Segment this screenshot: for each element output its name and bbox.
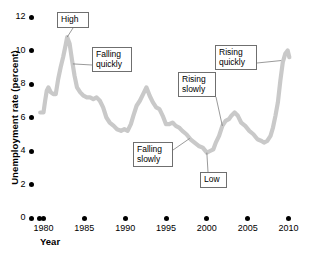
leader-line-rising-slowly <box>216 97 222 126</box>
callout-falling-slowly: Falling slowly <box>133 142 173 167</box>
unemployment-rate-chart: Unemployment rate (percent) Year 0246810… <box>0 0 311 261</box>
leader-line-rising-quickly <box>257 61 281 63</box>
callout-rising-slowly: Rising slowly <box>178 72 216 97</box>
callout-high: High <box>57 12 89 28</box>
callout-low: Low <box>200 172 227 188</box>
callout-falling-quickly: Falling quickly <box>92 47 132 72</box>
leader-line-falling-quickly <box>73 64 92 65</box>
callout-rising-quickly: Rising quickly <box>215 45 257 70</box>
annotation-leader-lines <box>0 0 311 261</box>
leader-line-high <box>67 28 73 37</box>
leader-line-low <box>207 153 208 172</box>
leader-line-falling-slowly <box>173 138 190 150</box>
